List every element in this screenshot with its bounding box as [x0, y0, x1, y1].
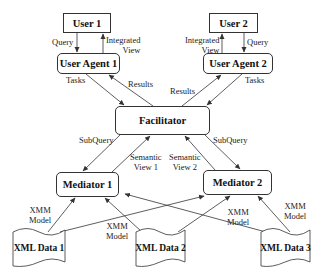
label-semantic-view2: Semantic View 2	[169, 153, 201, 172]
mediator2-box: Mediator 2	[203, 170, 272, 195]
user-agent1-label: User Agent 1	[60, 58, 118, 69]
mediator1-box: Mediator 1	[56, 172, 119, 197]
user2-box: User 2	[209, 13, 258, 33]
label-xmm2: XMM Model	[106, 222, 128, 241]
edge-xml1-med1	[48, 198, 75, 232]
label-query2: Query	[247, 38, 268, 48]
edges-layer	[0, 0, 322, 274]
facilitator-label: Facilitator	[139, 115, 186, 126]
label-tasks1: Tasks	[66, 76, 85, 86]
user1-box: User 1	[63, 13, 111, 33]
edge-tasks-ua1	[86, 74, 124, 105]
label-results2: Results	[170, 87, 195, 97]
label-subquery1: SubQuery	[79, 136, 113, 146]
label-semantic-view1: Semantic View 1	[130, 153, 162, 172]
label-xmm1: XMM Model	[29, 206, 51, 225]
label-results1: Results	[128, 80, 153, 90]
xml-data3-label: XML Data 3	[261, 236, 310, 260]
user1-label: User 1	[73, 18, 102, 29]
label-integrated-view1: Integrated View	[106, 36, 140, 55]
label-integrated-view2: Integrated View	[185, 36, 219, 55]
mediator1-label: Mediator 1	[63, 179, 113, 190]
mediator2-label: Mediator 2	[213, 177, 263, 188]
label-tasks2: Tasks	[245, 76, 264, 86]
label-query1: Query	[52, 38, 73, 48]
label-subquery2: SubQuery	[213, 136, 247, 146]
xml-data2-label: XML Data 2	[136, 236, 185, 260]
user-agent1-box: User Agent 1	[57, 53, 120, 74]
edge-xml2-med2	[178, 196, 230, 232]
xml-data1-label: XML Data 1	[13, 236, 65, 260]
user2-label: User 2	[219, 18, 248, 29]
user-agent2-label: User Agent 2	[209, 58, 267, 69]
architecture-diagram: User 1 User 2 User Agent 1 User Agent 2 …	[0, 0, 322, 274]
label-xmm4: XMM Model	[284, 202, 306, 221]
label-xmm3: XMM Model	[227, 208, 249, 227]
edge-tasks-ua2	[207, 74, 242, 105]
edge-xml1-med2	[60, 196, 204, 232]
facilitator-box: Facilitator	[115, 106, 210, 135]
user-agent2-box: User Agent 2	[203, 53, 273, 74]
